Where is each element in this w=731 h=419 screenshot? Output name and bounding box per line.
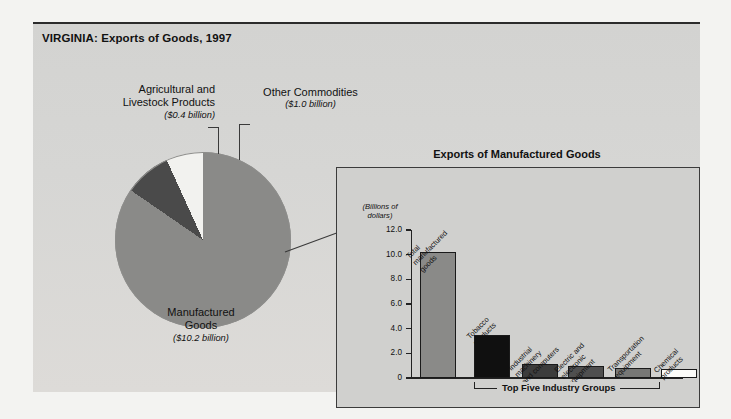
label-agricultural-line2: Livestock Products bbox=[63, 96, 215, 109]
label-other-commodities: Other Commodities ($1.0 billion) bbox=[248, 86, 373, 111]
bar-plot: (Billions of dollars) 12.010.08.06.04.02… bbox=[337, 168, 699, 407]
y-axis-caption-line1: (Billions of bbox=[347, 202, 413, 211]
pie-slices bbox=[115, 152, 291, 328]
y-tick-label: 8.0 bbox=[368, 274, 402, 283]
y-tick-mark bbox=[406, 328, 411, 329]
bracket-tick-left bbox=[474, 382, 475, 389]
leader-line-agricultural-vertical bbox=[218, 127, 219, 154]
label-agricultural: Agricultural and Livestock Products ($0.… bbox=[63, 83, 215, 121]
y-tick-mark bbox=[406, 279, 411, 280]
label-agricultural-amount: ($0.4 billion) bbox=[63, 110, 215, 121]
figure-page: VIRGINIA: Exports of Goods, 1997 Agricul… bbox=[0, 0, 731, 419]
y-tick-mark bbox=[406, 377, 411, 378]
label-manufactured-line2: Goods bbox=[113, 319, 289, 332]
y-tick-label: 6.0 bbox=[368, 299, 402, 308]
y-tick-label: 2.0 bbox=[368, 348, 402, 357]
bracket-label: Top Five Industry Groups bbox=[497, 382, 620, 393]
panel-title: Exports of Manufactured Goods bbox=[336, 148, 698, 160]
page-title: VIRGINIA: Exports of Goods, 1997 bbox=[42, 32, 232, 44]
pie-chart bbox=[115, 152, 291, 328]
label-other-line1: Other Commodities bbox=[248, 86, 373, 99]
y-tick-label: 10.0 bbox=[368, 250, 402, 259]
y-axis-caption-line2: dollars) bbox=[347, 211, 413, 220]
y-tick-mark bbox=[406, 229, 411, 230]
exports-figure: VIRGINIA: Exports of Goods, 1997 Agricul… bbox=[33, 22, 700, 392]
label-other-amount: ($1.0 billion) bbox=[248, 99, 373, 110]
label-manufactured-line1: Manufactured bbox=[113, 306, 289, 319]
y-tick-mark bbox=[406, 353, 411, 354]
y-axis-caption: (Billions of dollars) bbox=[347, 202, 413, 220]
leader-line-other-vertical bbox=[239, 124, 240, 160]
label-manufactured-amount: ($10.2 billion) bbox=[113, 333, 289, 344]
y-tick-mark bbox=[406, 303, 411, 304]
label-agricultural-line1: Agricultural and bbox=[63, 83, 215, 96]
bracket-tick-right bbox=[659, 382, 660, 389]
y-tick-label: 0 bbox=[368, 373, 402, 382]
leader-line-agricultural-horizontal bbox=[208, 127, 219, 128]
leader-line-other-horizontal bbox=[239, 124, 250, 125]
label-manufactured-goods: Manufactured Goods ($10.2 billion) bbox=[113, 306, 289, 344]
manufactured-goods-panel: (Billions of dollars) 12.010.08.06.04.02… bbox=[336, 167, 700, 408]
y-tick-label: 12.0 bbox=[368, 225, 402, 234]
y-tick-label: 4.0 bbox=[368, 324, 402, 333]
